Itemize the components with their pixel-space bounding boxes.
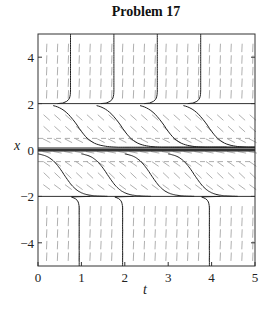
slope-mark (44, 173, 50, 179)
slope-mark (43, 139, 50, 143)
slope-mark (130, 173, 136, 179)
slope-mark (151, 152, 159, 154)
slope-mark (195, 185, 202, 190)
slope-mark (98, 126, 104, 132)
slope-mark (163, 173, 169, 179)
solution-curve (115, 196, 134, 266)
slope-mark (119, 139, 126, 143)
slope-mark (173, 185, 180, 190)
x-axis-label: t (143, 282, 148, 297)
slope-mark (87, 126, 93, 132)
y-tick-label: 2 (28, 97, 35, 112)
slope-mark (109, 126, 115, 132)
slope-mark (141, 126, 147, 132)
slope-mark (206, 115, 212, 121)
y-tick-label: −2 (20, 189, 34, 204)
direction-field-plot: 012345420−2−4 t x (0, 0, 272, 314)
slope-mark (44, 126, 50, 132)
slope-mark (140, 152, 148, 154)
slope-mark (206, 162, 213, 167)
slope-mark (228, 185, 235, 190)
slope-mark (163, 162, 170, 167)
slope-mark (185, 115, 191, 121)
slope-mark (249, 152, 257, 154)
slope-mark (54, 139, 61, 143)
slope-mark (228, 173, 234, 179)
slope-mark (162, 139, 169, 143)
x-tick-label: 3 (165, 270, 172, 285)
slope-mark (217, 115, 223, 121)
slope-mark (54, 185, 61, 190)
slope-field (43, 44, 257, 261)
slope-mark (184, 139, 191, 143)
slope-mark (119, 162, 126, 167)
slope-mark (174, 173, 180, 179)
slope-mark (130, 162, 137, 167)
solution-curve (125, 154, 194, 196)
slope-mark (120, 173, 126, 179)
slope-mark (53, 152, 61, 154)
slope-mark (141, 185, 148, 190)
slope-mark (239, 115, 245, 121)
solution-curve (140, 106, 255, 148)
slope-mark (141, 115, 147, 121)
slope-mark (87, 185, 94, 190)
slope-mark (130, 185, 137, 190)
slope-mark (119, 185, 126, 190)
slope-mark (54, 173, 60, 179)
slope-mark (141, 139, 148, 143)
x-tick-label: 1 (78, 270, 85, 285)
slope-mark (65, 126, 71, 132)
slope-mark (108, 152, 116, 154)
slope-mark (87, 162, 94, 167)
slope-mark (194, 152, 202, 154)
slope-mark (76, 173, 82, 179)
slope-mark (108, 139, 115, 143)
slope-mark (76, 162, 83, 167)
y-tick-label: −4 (20, 236, 34, 251)
slope-mark (195, 126, 201, 132)
x-tick-label: 0 (35, 270, 42, 285)
slope-mark (174, 115, 180, 121)
slope-mark (239, 126, 245, 132)
y-axis-label: x (13, 138, 21, 153)
slope-mark (119, 115, 125, 121)
slope-mark (86, 152, 94, 154)
y-tick-label: 0 (28, 143, 35, 158)
slope-mark (217, 173, 223, 179)
slope-mark (206, 139, 213, 143)
slope-mark (173, 162, 180, 167)
x-tick-label: 4 (208, 270, 215, 285)
slope-mark (108, 185, 115, 190)
slope-mark (228, 162, 235, 167)
y-tick-label: 4 (28, 50, 35, 65)
slope-mark (173, 152, 181, 154)
slope-mark (184, 185, 191, 190)
slope-mark (151, 139, 158, 143)
slope-mark (174, 126, 180, 132)
slope-mark (238, 152, 246, 154)
slope-mark (227, 139, 234, 143)
slope-mark (238, 139, 245, 143)
slope-mark (76, 139, 83, 143)
slope-mark (130, 115, 136, 121)
slope-mark (119, 152, 127, 154)
slope-mark (228, 115, 234, 121)
slope-mark (54, 126, 60, 132)
slope-mark (97, 152, 105, 154)
slope-mark (239, 162, 246, 167)
slope-mark (228, 126, 234, 132)
slope-mark (163, 185, 170, 190)
slope-mark (44, 115, 50, 121)
slope-mark (130, 126, 136, 132)
slope-mark (239, 185, 246, 190)
solution-curve (183, 106, 255, 148)
slope-mark (162, 152, 170, 154)
slope-mark (76, 115, 82, 121)
slope-mark (217, 126, 223, 132)
x-tick-label: 2 (122, 270, 129, 285)
slope-mark (195, 162, 202, 167)
solution-curve (38, 154, 107, 196)
slope-mark (217, 162, 224, 167)
solution-curve (202, 196, 221, 266)
